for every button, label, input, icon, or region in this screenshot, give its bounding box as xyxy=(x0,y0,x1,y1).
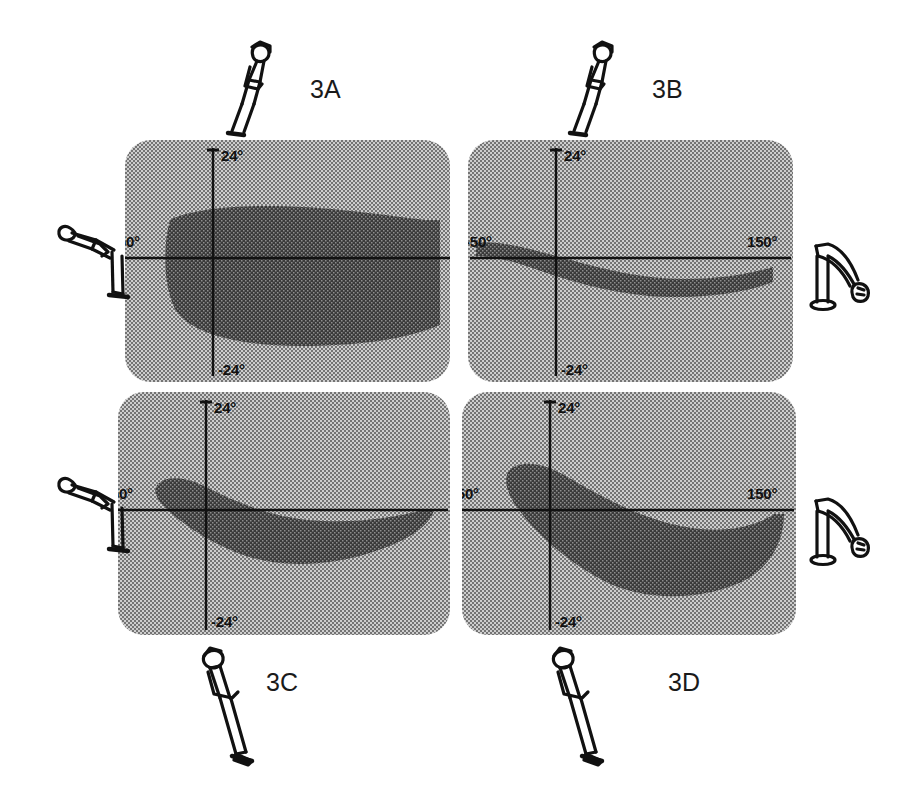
tick-top-3c: 24° xyxy=(214,400,236,415)
posture-icon-3d-right xyxy=(806,487,884,579)
figure-label-3d: 3D xyxy=(668,670,700,695)
posture-icon-3b-right xyxy=(806,232,884,324)
person-bent-horizontal-icon xyxy=(56,200,138,310)
panel-3b: 24° -24° -50° 150° xyxy=(468,140,793,382)
tick-right-3b: 150° xyxy=(747,234,777,249)
posture-icon-3a-left xyxy=(56,200,138,310)
person-bent-horizontal-icon xyxy=(56,452,138,564)
figure-label-3b: 3B xyxy=(652,77,683,102)
figure-root: 24° -24° -50° 24° -24° -50° 150° xyxy=(0,0,901,786)
person-standing-leaning-forward-icon xyxy=(556,34,626,144)
person-bent-fully-forward-icon xyxy=(806,232,884,324)
region-3a xyxy=(165,206,440,346)
tick-top-3a: 24° xyxy=(221,148,243,163)
person-leaning-backward-icon xyxy=(180,642,272,782)
tick-right-3d: 150° xyxy=(747,486,777,501)
posture-icon-3c-left xyxy=(56,452,138,564)
posture-icon-3d-bottom xyxy=(530,642,622,782)
panel-3d: 24° -24° -50° 150° xyxy=(462,392,796,635)
panel-3d-plot xyxy=(462,392,796,635)
tick-left-3b: -50° xyxy=(468,234,492,249)
posture-icon-3c-bottom xyxy=(180,642,272,782)
tick-top-3b: 24° xyxy=(564,148,586,163)
person-bent-fully-forward-icon xyxy=(806,487,884,579)
panel-3a: 24° -24° -50° xyxy=(125,140,450,382)
panel-3c-plot xyxy=(118,392,450,635)
tick-bottom-3d: -24° xyxy=(555,614,582,629)
figure-label-3a: 3A xyxy=(310,77,341,102)
panel-3a-plot xyxy=(125,140,450,382)
tick-bottom-3b: -24° xyxy=(561,362,588,377)
posture-icon-3a-top xyxy=(214,34,284,144)
person-standing-leaning-forward-icon xyxy=(214,34,284,144)
tick-top-3d: 24° xyxy=(558,400,580,415)
tick-bottom-3a: -24° xyxy=(218,362,245,377)
panel-3c: 24° -24° -50° xyxy=(118,392,450,635)
region-3c xyxy=(155,478,434,564)
region-3d xyxy=(506,464,784,596)
region-3b xyxy=(476,242,773,297)
tick-bottom-3c: -24° xyxy=(211,614,238,629)
person-leaning-backward-icon xyxy=(530,642,622,782)
posture-icon-3b-top xyxy=(556,34,626,144)
panel-3b-plot xyxy=(468,140,793,382)
tick-left-3d: -50° xyxy=(462,486,479,501)
